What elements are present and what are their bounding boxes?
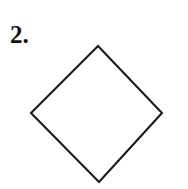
- geometry-figure-canvas: [0, 0, 188, 189]
- diamond-shape: [31, 46, 162, 182]
- figure-page: 2.: [0, 0, 188, 189]
